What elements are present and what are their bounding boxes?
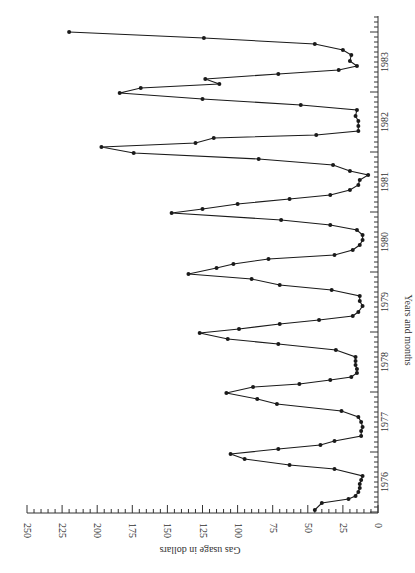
data-point bbox=[355, 371, 359, 375]
data-point bbox=[331, 163, 335, 167]
data-point bbox=[361, 425, 365, 429]
y-tick-label: 125 bbox=[198, 523, 209, 538]
data-point bbox=[243, 457, 247, 461]
data-point bbox=[231, 262, 235, 266]
data-point bbox=[278, 322, 282, 326]
data-point bbox=[341, 48, 345, 52]
data-point bbox=[202, 36, 206, 40]
data-point bbox=[201, 97, 205, 101]
data-point bbox=[139, 86, 143, 90]
data-point bbox=[332, 253, 336, 257]
data-point bbox=[355, 108, 359, 112]
data-point bbox=[288, 463, 292, 467]
data-point bbox=[337, 68, 341, 72]
data-point bbox=[236, 202, 240, 206]
data-point bbox=[229, 452, 233, 456]
data-point bbox=[198, 331, 202, 335]
data-point bbox=[356, 129, 360, 133]
data-point bbox=[348, 188, 352, 192]
y-tick-label: 0 bbox=[373, 523, 384, 528]
gas-usage-chart: 0255075100125150175200225250197619771978… bbox=[0, 0, 415, 573]
y-tick-label: 225 bbox=[57, 523, 68, 538]
data-point bbox=[193, 141, 197, 145]
data-point bbox=[349, 375, 353, 379]
x-tick-label: 1978 bbox=[379, 352, 390, 372]
data-point bbox=[355, 64, 359, 68]
data-point bbox=[99, 145, 103, 149]
data-point bbox=[355, 367, 359, 371]
data-point bbox=[347, 497, 351, 501]
data-point bbox=[358, 294, 362, 298]
data-point bbox=[366, 173, 370, 177]
data-point bbox=[334, 348, 338, 352]
data-point bbox=[358, 299, 362, 303]
data-point bbox=[328, 378, 332, 382]
data-point bbox=[314, 133, 318, 137]
data-point bbox=[354, 363, 358, 367]
axes: 0255075100125150175200225250197619771978… bbox=[22, 16, 390, 538]
y-tick-label: 75 bbox=[268, 523, 279, 533]
y-tick-label: 50 bbox=[303, 523, 314, 533]
data-point bbox=[361, 233, 365, 237]
data-point bbox=[356, 119, 360, 123]
data-point bbox=[354, 494, 358, 498]
data-point bbox=[358, 243, 362, 247]
x-axis-title: Years and months bbox=[403, 294, 414, 365]
data-point bbox=[356, 490, 360, 494]
x-tick-label: 1981 bbox=[379, 172, 390, 192]
data-point bbox=[276, 447, 280, 451]
data-point bbox=[132, 151, 136, 155]
data-point bbox=[297, 382, 301, 386]
data-point bbox=[203, 77, 207, 81]
data-point bbox=[299, 103, 303, 107]
data-point bbox=[354, 114, 358, 118]
data-point bbox=[348, 59, 352, 63]
x-tick-label: 1976 bbox=[379, 472, 390, 492]
y-tick-label: 25 bbox=[338, 523, 349, 533]
data-point bbox=[212, 136, 216, 140]
data-point bbox=[356, 415, 360, 419]
data-point bbox=[67, 30, 71, 34]
data-point bbox=[339, 409, 343, 413]
data-point bbox=[356, 310, 360, 314]
data-point bbox=[330, 288, 334, 292]
data-point bbox=[328, 193, 332, 197]
data-point bbox=[250, 277, 254, 281]
data-point bbox=[355, 228, 359, 232]
data-point bbox=[328, 223, 332, 227]
y-tick-label: 250 bbox=[22, 523, 33, 538]
data-point bbox=[266, 257, 270, 261]
x-tick-label: 1977 bbox=[379, 412, 390, 432]
data-point bbox=[354, 359, 358, 363]
data-point bbox=[237, 327, 241, 331]
data-point bbox=[201, 207, 205, 211]
data-point bbox=[358, 486, 362, 490]
data-series bbox=[67, 30, 370, 512]
data-point bbox=[351, 248, 355, 252]
series-line bbox=[69, 32, 368, 510]
x-tick-label: 1983 bbox=[379, 52, 390, 72]
data-point bbox=[361, 474, 365, 478]
data-point bbox=[279, 218, 283, 222]
data-point bbox=[320, 501, 324, 505]
data-point bbox=[349, 53, 353, 57]
data-point bbox=[217, 82, 221, 86]
data-point bbox=[356, 183, 360, 187]
data-point bbox=[358, 178, 362, 182]
y-tick-label: 100 bbox=[233, 523, 244, 538]
data-point bbox=[359, 478, 363, 482]
data-point bbox=[361, 304, 365, 308]
data-point bbox=[255, 397, 259, 401]
data-point bbox=[275, 402, 279, 406]
data-point bbox=[348, 169, 352, 173]
data-point bbox=[288, 197, 292, 201]
data-point bbox=[359, 420, 363, 424]
data-point bbox=[118, 91, 122, 95]
y-tick-label: 175 bbox=[127, 523, 138, 538]
data-point bbox=[186, 272, 190, 276]
data-point bbox=[257, 157, 261, 161]
data-point bbox=[313, 42, 317, 46]
data-point bbox=[170, 211, 174, 215]
data-point bbox=[251, 385, 255, 389]
data-point bbox=[313, 508, 317, 512]
